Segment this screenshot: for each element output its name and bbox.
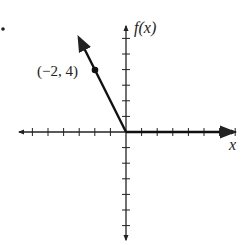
graph: (−2, 4) f(x) x [0, 0, 250, 245]
point-label: (−2, 4) [37, 63, 78, 80]
y-axis-label: f(x) [134, 19, 156, 37]
point-marker [92, 67, 99, 74]
x-axis-label: x [228, 136, 236, 153]
bullet-icon [1, 27, 5, 31]
function-left-ray [79, 38, 126, 132]
